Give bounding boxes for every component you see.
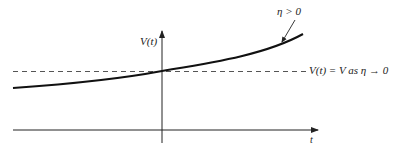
v-t-curve: [13, 34, 303, 88]
x-axis-label: t: [310, 134, 313, 145]
curve-label: η > 0: [277, 5, 301, 17]
diagram-canvas: [0, 0, 394, 154]
dashed-line-label: V(t) = V as η → 0: [309, 64, 388, 76]
y-axis-label: V(t): [140, 35, 157, 47]
